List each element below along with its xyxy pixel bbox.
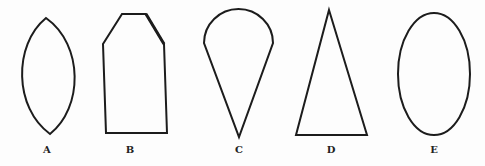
label-a: A	[43, 145, 51, 155]
shape-a-lens	[22, 18, 75, 134]
shape-d-triangle	[296, 10, 367, 135]
shapes-drawing	[0, 0, 485, 166]
shape-b-thick-edge	[146, 14, 164, 44]
shapes-figure: A B C D E	[0, 0, 485, 166]
label-d: D	[327, 145, 336, 155]
shape-c-teardrop	[204, 9, 273, 137]
label-e: E	[430, 145, 438, 155]
label-c: C	[235, 145, 243, 155]
shape-e-ellipse	[398, 13, 470, 135]
label-b: B	[126, 145, 134, 155]
